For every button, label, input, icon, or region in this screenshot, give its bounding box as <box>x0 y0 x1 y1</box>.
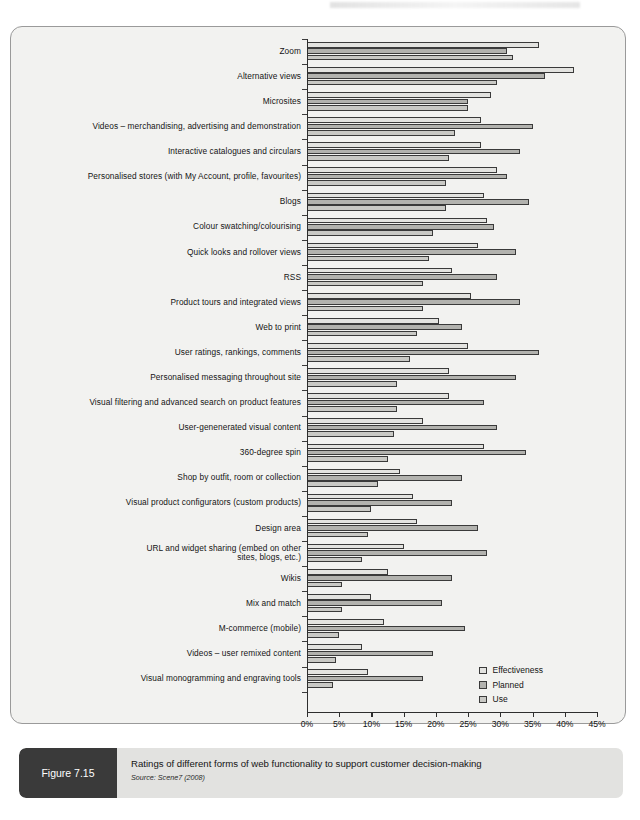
category-label: Wikis <box>11 574 307 584</box>
bar-use <box>307 180 446 186</box>
bar-use <box>307 506 371 512</box>
chart-row: Colour swatching/colourising <box>11 215 627 240</box>
bar-use <box>307 557 362 563</box>
bar-planned <box>307 626 465 632</box>
bar-effectiveness <box>307 117 481 123</box>
category-tick <box>302 591 307 592</box>
bar-planned <box>307 425 497 431</box>
row-bars <box>307 215 627 240</box>
bar-use <box>307 80 497 86</box>
bar-use <box>307 281 423 287</box>
bar-planned <box>307 73 545 79</box>
row-bars <box>307 616 627 641</box>
bar-use <box>307 105 468 111</box>
axis-tick <box>565 712 566 717</box>
scan-artifact <box>330 2 580 8</box>
category-label: Visual product configurators (custom pro… <box>11 498 307 508</box>
bar-planned <box>307 600 442 606</box>
axis-tick <box>597 712 598 717</box>
category-label: User ratings, rankings, comments <box>11 348 307 358</box>
row-bars <box>307 89 627 114</box>
category-tick <box>302 692 307 693</box>
row-bars <box>307 491 627 516</box>
bar-use <box>307 582 342 588</box>
caption-body: Ratings of different forms of web functi… <box>131 758 613 782</box>
category-tick <box>302 165 307 166</box>
chart-row: Shop by outfit, room or collection <box>11 466 627 491</box>
bar-planned <box>307 274 497 280</box>
category-label: Microsites <box>11 97 307 107</box>
bar-planned <box>307 525 478 531</box>
row-bars <box>307 114 627 139</box>
category-label: Interactive catalogues and circulars <box>11 147 307 157</box>
chart-row: User ratings, rankings, comments <box>11 340 627 365</box>
row-bars <box>307 541 627 566</box>
row-bars <box>307 591 627 616</box>
bar-effectiveness <box>307 218 487 224</box>
axis-tick-label: 20% <box>427 719 444 729</box>
axis-tick-label: 45% <box>588 719 605 729</box>
bar-effectiveness <box>307 619 384 625</box>
bar-planned <box>307 375 516 381</box>
bar-effectiveness <box>307 142 481 148</box>
axis-tick-label: 10% <box>363 719 380 729</box>
bar-effectiveness <box>307 444 484 450</box>
row-bars <box>307 466 627 491</box>
row-bars <box>307 641 627 666</box>
bar-use <box>307 256 429 262</box>
chart-row: Interactive catalogues and circulars <box>11 139 627 164</box>
category-label: Blogs <box>11 197 307 207</box>
bar-planned <box>307 676 423 682</box>
figure-page: ZoomAlternative viewsMicrositesVideos – … <box>0 0 640 820</box>
legend-label: Planned <box>493 680 524 690</box>
category-tick <box>302 215 307 216</box>
category-tick <box>302 240 307 241</box>
legend-item: Planned <box>479 678 543 693</box>
row-bars <box>307 516 627 541</box>
axis-tick <box>371 712 372 717</box>
bar-use <box>307 456 388 462</box>
caption-title: Ratings of different forms of web functi… <box>131 758 613 770</box>
category-label: Quick looks and rollover views <box>11 248 307 258</box>
bar-planned <box>307 149 520 155</box>
caption-source: Source: Scene7 (2008) <box>131 773 613 782</box>
category-label: URL and widget sharing (embed on other s… <box>11 544 307 563</box>
bar-effectiveness <box>307 669 368 675</box>
axis-tick <box>339 712 340 717</box>
chart-row: Microsites <box>11 89 627 114</box>
chart-row: 360-degree spin <box>11 441 627 466</box>
category-label: RSS <box>11 273 307 283</box>
category-label: Web to print <box>11 323 307 333</box>
bar-use <box>307 431 394 437</box>
category-tick <box>302 89 307 90</box>
bar-planned <box>307 174 507 180</box>
chart-row: Design area <box>11 516 627 541</box>
value-axis-line <box>307 712 597 713</box>
bar-effectiveness <box>307 469 400 475</box>
axis-tick <box>500 712 501 717</box>
bar-effectiveness <box>307 92 491 98</box>
category-tick <box>302 416 307 417</box>
category-label: Shop by outfit, room or collection <box>11 473 307 483</box>
chart-rows: ZoomAlternative viewsMicrositesVideos – … <box>11 39 627 691</box>
bar-effectiveness <box>307 393 449 399</box>
category-label: Videos – merchandising, advertising and … <box>11 122 307 132</box>
bar-effectiveness <box>307 293 471 299</box>
figure-number-badge: Figure 7.15 <box>19 748 117 798</box>
chart-row: Visual product configurators (custom pro… <box>11 491 627 516</box>
category-label: Design area <box>11 524 307 534</box>
axis-tick-label: 0% <box>301 719 313 729</box>
row-bars <box>307 666 627 691</box>
axis-tick-label: 35% <box>524 719 541 729</box>
category-label: M-commerce (mobile) <box>11 624 307 634</box>
category-tick <box>302 64 307 65</box>
bar-use <box>307 657 336 663</box>
chart-row: M-commerce (mobile) <box>11 616 627 641</box>
bar-use <box>307 356 410 362</box>
category-tick <box>302 641 307 642</box>
chart-row: Zoom <box>11 39 627 64</box>
bar-effectiveness <box>307 494 413 500</box>
bar-use <box>307 155 449 161</box>
bar-planned <box>307 350 539 356</box>
chart-row: Visual filtering and advanced search on … <box>11 390 627 415</box>
